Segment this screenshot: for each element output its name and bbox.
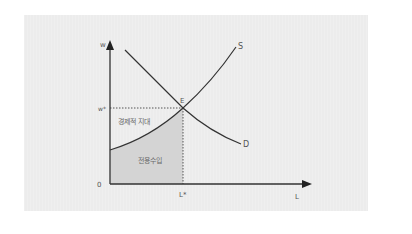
equilibrium-point-label: E [180, 97, 184, 105]
equilibrium-quantity-label: L* [179, 191, 187, 199]
economic-rent-label: 경제적 지대 [118, 117, 150, 126]
y-axis-arrow-icon [106, 40, 114, 50]
equilibrium-wage-label: w* [98, 105, 106, 112]
transfer-earnings-label: 전용수입 [138, 156, 162, 165]
x-axis-label: L [295, 193, 299, 201]
x-axis-arrow-icon [302, 180, 312, 188]
demand-curve-label: D [243, 140, 249, 149]
economic-rent-diagram: w L 0 E w* L* S D 경제적 지대 전용수입 [0, 0, 412, 234]
origin-label: 0 [97, 181, 101, 189]
y-axis-label: w [100, 41, 106, 49]
supply-curve-label: S [238, 42, 243, 51]
